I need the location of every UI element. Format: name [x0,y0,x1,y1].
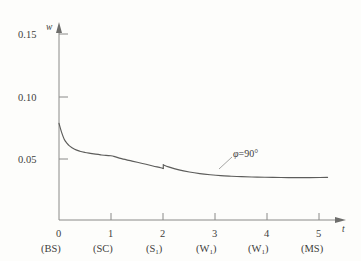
x-secondary-label: (S1) [146,243,163,256]
x-tick-label: 1 [108,228,113,239]
x-tick-label: 5 [316,228,321,239]
line-chart: w t 0.15 0.10 0.05 0 (BS) 1 (SC) 2 (S1) … [0,0,361,261]
y-tick-label: 0.15 [18,29,36,40]
x-tick-label: 2 [160,228,165,239]
y-tick-label: 0.10 [18,92,36,103]
x-secondary-label: (MS) [301,243,324,255]
x-axis-arrowhead [335,217,346,223]
x-tick-label: 4 [264,228,270,239]
y-axis-arrowhead [56,22,62,33]
x-secondary-label: (BS) [41,243,61,255]
y-tick-label: 0.05 [18,154,36,165]
x-tick-label: 3 [212,228,217,239]
annotation-phi-90: φ=90° [233,148,258,159]
x-secondary-label: (W1) [196,243,217,256]
data-curve [59,123,163,168]
x-secondary-label: (SC) [93,243,113,255]
y-axis-title: w [46,22,53,32]
annotation-leader-line [219,157,232,169]
x-secondary-label: (W1) [248,243,269,256]
figure-container: w t 0.15 0.10 0.05 0 (BS) 1 (SC) 2 (S1) … [0,0,361,261]
x-axis-title: t [342,224,345,234]
data-curve [163,165,327,178]
x-tick-label: 0 [56,228,61,239]
x-tick-group: 0 (BS) 1 (SC) 2 (S1) 3 (W1) 4 (W1) 5 (MS… [41,213,324,256]
y-tick-group: 0.15 0.10 0.05 [18,29,68,165]
